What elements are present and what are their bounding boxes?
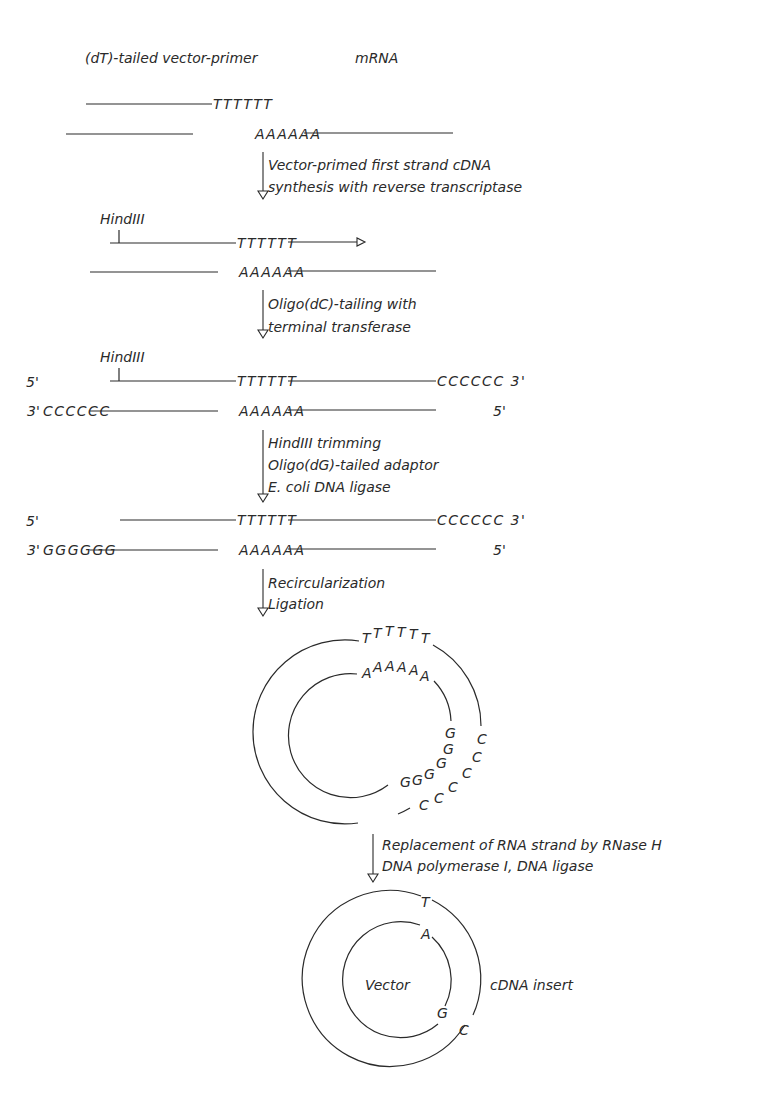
circle1-g-0: G [445, 725, 456, 741]
outer-strand-arc-right [433, 645, 481, 726]
inner-strand-arc [288, 674, 388, 798]
arrowhead-icon [258, 608, 268, 616]
circle1-c-1: C [472, 749, 482, 765]
step5-arrow [368, 834, 378, 882]
circle1-t-2: T [385, 623, 395, 639]
extension-arrowhead-icon [357, 238, 365, 246]
five-prime-end: 5' [493, 542, 506, 558]
stage1: TTTTTT AAAAAA [66, 96, 453, 142]
circle1-a-5: A [419, 668, 430, 684]
oligo-dt-tail: TTTTTT [213, 96, 273, 112]
five-prime-end: 5' [26, 374, 39, 390]
step3-label-line3: E. coli DNA ligase [268, 479, 391, 495]
three-prime-end: 3' [27, 403, 40, 419]
step2-label-line1: Oligo(dC)-tailing with [268, 296, 417, 312]
recircularized-plasmid: T T T T T T A A A A A A G G G G G G C C … [253, 623, 487, 824]
circle1-t-3: T [397, 624, 407, 640]
circle1-c-0: C [477, 731, 487, 747]
stage2: HindIII TTTTTT AAAAAA [90, 211, 436, 280]
circle1-t-5: T [421, 630, 431, 646]
cdna-insert-outer-arc [432, 900, 481, 1015]
hindiii-site-label: HindIII [100, 349, 145, 365]
circle1-a-0: A [361, 665, 372, 681]
header-vector-primer: (dT)-tailed vector-primer [85, 50, 259, 66]
poly-a-tail: AAAAAA [254, 126, 321, 142]
circle1-t-0: T [362, 630, 372, 646]
stage4: 5' TTTTTT CCCCCC 3' 3' GGGGGG AAAAAA 5' [26, 512, 526, 558]
step1-arrow [258, 152, 268, 199]
step1-label-line2: synthesis with reverse transcriptase [268, 179, 522, 195]
hindiii-site-label: HindIII [100, 211, 145, 227]
poly-a-tail: AAAAAA [238, 542, 305, 558]
poly-a-tail: AAAAAA [238, 264, 305, 280]
circle1-g-4: G [412, 772, 423, 788]
arrowhead-icon [258, 494, 268, 502]
inner-strand-arc-right [434, 681, 451, 721]
five-prime-end: 5' [26, 513, 39, 529]
cdna-insert-inner-arc [432, 937, 451, 1006]
circle1-c-2: C [462, 765, 472, 781]
circle1-c-4: C [434, 790, 444, 806]
outer-strand-connector [398, 808, 410, 814]
step3-label-line2: Oligo(dG)-tailed adaptor [268, 457, 440, 473]
circle1-g-2: G [436, 755, 447, 771]
step4-label-line2: Ligation [268, 596, 324, 612]
step3-label-line1: HindIII trimming [268, 435, 381, 451]
circle1-g-5: G [400, 774, 411, 790]
step5-label-line2: DNA polymerase I, DNA ligase [382, 858, 593, 874]
header-mrna: mRNA [355, 50, 398, 66]
circle1-a-3: A [396, 659, 407, 675]
three-prime-end: 3' [27, 542, 40, 558]
oligo-dc-tail: CCCCCC 3' [437, 512, 526, 528]
poly-a-tail: AAAAAA [238, 403, 305, 419]
cdna-insert-label: cDNA insert [490, 977, 573, 993]
step2-arrow [258, 290, 268, 338]
oligo-dt-tail: TTTTTT [237, 235, 297, 251]
junction-a: A [420, 926, 431, 942]
circle1-c-3: C [448, 779, 458, 795]
circle1-a-4: A [408, 662, 419, 678]
five-prime-end: 5' [493, 403, 506, 419]
junction-c: C [459, 1022, 469, 1038]
step5-label-line1: Replacement of RNA strand by RNase H [382, 837, 662, 853]
circle1-c-5: C [419, 797, 429, 813]
arrowhead-icon [258, 330, 268, 338]
vector-label: Vector [365, 977, 411, 993]
cdna-cloning-diagram: (dT)-tailed vector-primer mRNA TTTTTT AA… [0, 0, 775, 1117]
junction-g: G [437, 1005, 448, 1021]
step4-arrow [258, 569, 268, 616]
circle1-a-1: A [372, 659, 383, 675]
circle1-t-1: T [373, 625, 383, 641]
stage3: HindIII 5' TTTTTT CCCCCC 3' 3' CCCCCC AA… [26, 349, 526, 419]
junction-t: T [421, 894, 431, 910]
circle1-a-2: A [384, 658, 395, 674]
step4-label-line1: Recircularization [268, 575, 385, 591]
circle1-g-3: G [424, 766, 435, 782]
outer-strand-arc [253, 640, 359, 824]
step2-label-line2: terminal transferase [268, 319, 411, 335]
step1-label-line1: Vector-primed first strand cDNA [268, 157, 491, 173]
arrowhead-icon [368, 874, 378, 882]
oligo-dc-tail-top: CCCCCC 3' [437, 373, 526, 389]
step3-arrow [258, 430, 268, 502]
arrowhead-icon [258, 191, 268, 199]
final-plasmid: T A G C Vector cDNA insert [302, 890, 573, 1066]
circle1-t-4: T [409, 626, 419, 642]
